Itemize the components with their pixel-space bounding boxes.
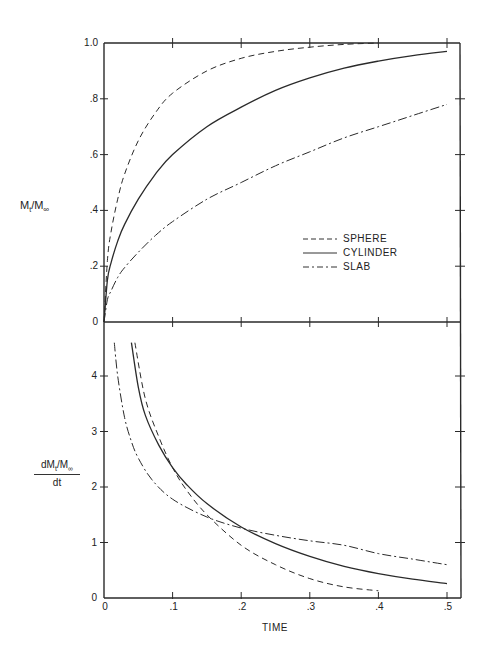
- y-label-slash: /M: [31, 199, 43, 211]
- top-y-tick-label: .2: [78, 260, 98, 271]
- bottom-y-tick-label: 1: [77, 537, 97, 548]
- x-axis-title: TIME: [262, 622, 288, 633]
- bottom-y-label-denominator: dt: [34, 477, 80, 488]
- top-y-axis-label: Mt/M∞: [20, 199, 49, 214]
- num-sub-inf: ∞: [68, 465, 73, 472]
- chart-curves: [104, 43, 447, 591]
- num-slash: /M: [57, 459, 68, 470]
- y-label-sub-inf: ∞: [43, 205, 49, 214]
- bottom-y-tick-label: 3: [77, 426, 97, 437]
- bottom-cylinder-curve: [131, 343, 447, 584]
- fraction-bar: [34, 474, 80, 475]
- y-label-main: M: [20, 199, 29, 211]
- bottom-y-tick-label: 2: [77, 481, 97, 492]
- legend-swatch-dashdot-icon: [303, 264, 337, 270]
- top-cylinder-curve: [104, 51, 447, 322]
- x-tick-label: .5: [438, 601, 458, 612]
- top-y-tick-label: .4: [78, 204, 98, 215]
- legend-item-slab: SLAB: [303, 261, 371, 272]
- top-slab-curve: [104, 104, 447, 322]
- bottom-y-tick-label: 4: [77, 370, 97, 381]
- chart-frame: [100, 38, 465, 599]
- x-tick-label: .1: [164, 601, 184, 612]
- x-tick-label: .2: [232, 601, 252, 612]
- x-tick-label: 0: [95, 601, 115, 612]
- top-y-tick-label: 0: [78, 316, 98, 327]
- num-main: dM: [41, 459, 55, 470]
- legend-item-cylinder: CYLINDER: [303, 247, 398, 258]
- top-y-tick-label: .6: [78, 149, 98, 160]
- x-tick-label: .3: [301, 601, 321, 612]
- legend-label: SPHERE: [343, 233, 387, 244]
- legend-label: SLAB: [343, 261, 371, 272]
- chart-canvas: [0, 0, 488, 659]
- legend-item-sphere: SPHERE: [303, 233, 387, 244]
- bottom-y-tick-label: 0: [77, 592, 97, 603]
- legend-swatch-solid-icon: [303, 250, 337, 256]
- legend-label: CYLINDER: [343, 247, 398, 258]
- legend-swatch-dashed-icon: [303, 236, 337, 242]
- x-tick-label: .4: [369, 601, 389, 612]
- bottom-y-label-numerator: dMt/M∞: [34, 459, 80, 472]
- top-y-tick-label: .8: [78, 93, 98, 104]
- top-y-tick-label: 1.0: [78, 37, 98, 48]
- bottom-y-axis-label: dMt/M∞ dt: [34, 459, 80, 488]
